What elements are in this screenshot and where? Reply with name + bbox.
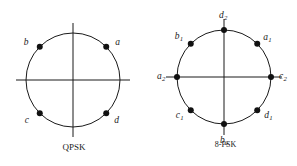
constellation-point-label: a <box>115 38 120 48</box>
constellation-point <box>37 44 43 50</box>
constellation-point <box>254 107 260 113</box>
constellation-point-label: a2 <box>157 72 165 82</box>
constellation-point-label: c2 <box>279 72 287 82</box>
qpsk-constellation-diagram: abcd QPSK <box>0 0 148 166</box>
constellation-point <box>37 110 43 116</box>
constellation-point <box>221 121 227 127</box>
constellation-point-label: b <box>24 38 29 48</box>
constellation-point-label: a1 <box>263 33 271 43</box>
constellation-point <box>103 110 109 116</box>
constellation-point <box>221 27 227 33</box>
qpsk-caption: QPSK <box>0 143 148 152</box>
figure-page: abcd QPSK c2a1d2b1a2c1b2d1 8-PSK <box>0 0 297 166</box>
constellation-point <box>268 74 274 80</box>
constellation-point-label: b1 <box>175 32 183 42</box>
constellation-point <box>188 107 194 113</box>
eight-psk-constellation-diagram: c2a1d2b1a2c1b2d1 8-PSK <box>148 0 297 166</box>
constellation-point-label: d2 <box>219 11 227 21</box>
constellation-point <box>254 41 260 47</box>
constellation-point-label: c <box>25 116 29 126</box>
constellation-point <box>103 44 109 50</box>
constellation-point-label: d <box>114 116 119 126</box>
constellation-point-label: d1 <box>264 111 272 121</box>
eight-psk-caption: 8-PSK <box>148 141 297 149</box>
constellation-point <box>174 74 180 80</box>
constellation-point <box>188 41 194 47</box>
constellation-point-label: c1 <box>176 111 184 121</box>
